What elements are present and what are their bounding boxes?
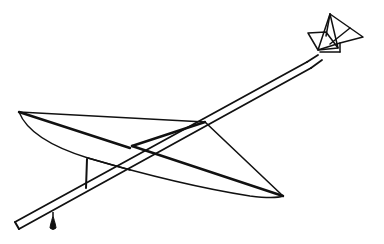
glider-drawing xyxy=(0,0,384,244)
fuselage-boom xyxy=(15,55,322,229)
nose-propeller xyxy=(308,14,363,52)
wing xyxy=(19,112,283,198)
ballast-weight xyxy=(50,212,56,230)
